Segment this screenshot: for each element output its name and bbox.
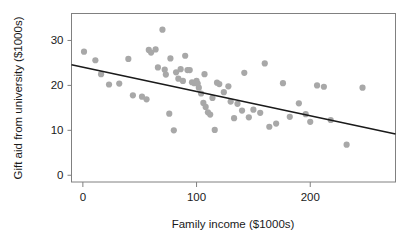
scatter-point	[81, 49, 87, 55]
y-axis-title: Gift aid from university ($1000s)	[12, 16, 24, 179]
scatter-point	[182, 53, 188, 59]
x-axis-ticks	[83, 182, 310, 187]
scatter-point	[106, 81, 112, 87]
scatter-point	[187, 67, 193, 73]
scatter-point	[159, 27, 165, 33]
scatter-point	[225, 83, 231, 89]
scatter-point	[241, 70, 247, 76]
scatter-point	[359, 85, 365, 91]
y-tick-label: 0	[57, 169, 63, 181]
scatter-point	[239, 107, 245, 113]
scatter-point	[163, 72, 169, 78]
scatter-point	[321, 84, 327, 90]
scatter-point	[155, 64, 161, 70]
scatter-points-group	[81, 27, 366, 148]
scatter-point	[344, 142, 350, 148]
regression-line	[72, 65, 396, 134]
scatter-point	[234, 101, 240, 107]
plot-frame	[72, 14, 396, 183]
scatter-point	[92, 57, 98, 63]
x-axis-title: Family income ($1000s)	[172, 218, 295, 230]
scatter-point	[246, 114, 252, 120]
scatter-point	[212, 127, 218, 133]
chart-canvas: 0102030 0100200 Family income ($1000s) G…	[0, 0, 418, 240]
scatter-point	[307, 119, 313, 125]
scatter-point	[280, 80, 286, 86]
scatter-point	[250, 107, 256, 113]
scatter-point	[125, 56, 131, 62]
scatter-point	[143, 96, 149, 102]
scatter-point	[196, 85, 202, 91]
scatter-point	[201, 71, 207, 77]
scatter-point	[216, 81, 222, 87]
x-tick-label: 0	[80, 191, 86, 203]
scatter-point	[153, 46, 159, 52]
y-tick-label: 10	[51, 124, 64, 136]
x-tick-label: 100	[187, 191, 206, 203]
scatter-point	[314, 82, 320, 88]
x-tick-label: 200	[301, 191, 320, 203]
scatter-point	[178, 66, 184, 72]
y-axis-ticks	[68, 40, 72, 175]
scatter-point	[171, 127, 177, 133]
scatter-point	[296, 100, 302, 106]
scatter-point	[257, 110, 263, 116]
scatter-point	[203, 104, 209, 110]
scatter-point	[166, 111, 172, 117]
scatter-point	[273, 120, 279, 126]
scatter-point	[266, 124, 272, 130]
scatter-point	[130, 92, 136, 98]
scatter-point	[287, 114, 293, 120]
scatter-point	[167, 55, 173, 61]
y-axis-tick-labels: 0102030	[51, 34, 64, 181]
scatter-point	[221, 89, 227, 95]
scatter-point	[231, 115, 237, 121]
y-tick-label: 20	[51, 79, 64, 91]
scatter-point	[262, 60, 268, 66]
y-tick-label: 30	[51, 34, 64, 46]
x-axis-tick-labels: 0100200	[80, 191, 320, 203]
scatter-plot-figure: 0102030 0100200 Family income ($1000s) G…	[0, 0, 418, 240]
scatter-point	[116, 80, 122, 86]
scatter-point	[207, 112, 213, 118]
scatter-point	[180, 78, 186, 84]
